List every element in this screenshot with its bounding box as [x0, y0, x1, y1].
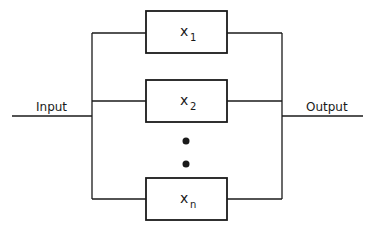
ellipsis-dot-2: [183, 161, 190, 168]
block-x1-sub: 1: [190, 32, 196, 43]
block-xn: x n: [146, 178, 227, 220]
block-xn-sub: n: [190, 199, 196, 210]
parallel-system-diagram: Input Output x 1 x 2 x n: [0, 0, 366, 228]
ellipsis-dot-1: [183, 138, 190, 145]
block-xn-var: x: [180, 190, 188, 206]
input-label: Input: [36, 100, 67, 114]
output-label: Output: [306, 100, 348, 114]
block-x2: x 2: [146, 80, 227, 122]
block-x2-var: x: [180, 92, 188, 108]
block-x2-sub: 2: [190, 101, 196, 112]
block-x1-var: x: [180, 23, 188, 39]
block-x1: x 1: [146, 11, 227, 53]
